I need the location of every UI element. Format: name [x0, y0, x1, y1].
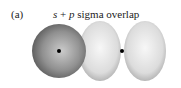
- s-nucleus-dot: [57, 49, 61, 53]
- p-orbital-right-lobe: [124, 21, 166, 81]
- orbital-diagram: [0, 0, 181, 88]
- p-nucleus-dot: [120, 49, 124, 53]
